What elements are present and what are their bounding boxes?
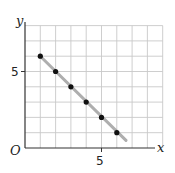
- x-tick-label: 5: [96, 154, 104, 168]
- data-point: [38, 54, 43, 59]
- data-point: [53, 69, 58, 74]
- y-tick-label: 5: [11, 65, 19, 79]
- data-point: [84, 100, 89, 105]
- y-axis-label: y: [15, 13, 24, 28]
- data-point: [99, 115, 104, 120]
- data-point: [114, 130, 119, 135]
- data-point: [68, 84, 73, 89]
- origin-label: O: [10, 143, 21, 158]
- grid-lines: [25, 26, 163, 148]
- trend-line: [40, 56, 126, 140]
- chart-canvas: y x O 5 5: [0, 0, 175, 173]
- x-axis-label: x: [157, 140, 165, 155]
